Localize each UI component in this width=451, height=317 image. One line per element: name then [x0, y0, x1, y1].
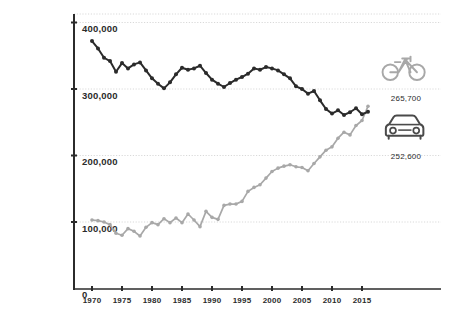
x-axis-tick-label: 1985 [173, 296, 192, 305]
data-point-marker [192, 66, 196, 70]
chart-container: 0100,000200,000300,000400,000 1970197519… [0, 0, 451, 317]
data-point-marker [168, 80, 172, 84]
data-point-marker [300, 166, 304, 170]
data-point-marker [324, 107, 328, 111]
data-point-marker [180, 66, 184, 70]
data-point-marker [342, 130, 346, 134]
data-point-marker [324, 148, 328, 152]
chart-background [0, 0, 451, 317]
data-point-marker [282, 72, 286, 76]
x-axis-tick-label: 1995 [233, 296, 252, 305]
data-point-marker [330, 145, 334, 149]
data-point-marker [228, 81, 232, 85]
data-point-marker [246, 190, 250, 194]
car-value-label: 252,600 [391, 152, 422, 161]
data-point-marker [138, 60, 142, 64]
data-point-marker [186, 212, 190, 216]
data-point-marker [318, 155, 322, 159]
data-point-marker [234, 202, 238, 206]
data-point-marker [300, 87, 304, 91]
data-point-marker [330, 112, 334, 116]
data-point-marker [270, 66, 274, 70]
data-point-marker [96, 219, 100, 223]
x-axis-tick-label: 1990 [203, 296, 222, 305]
data-point-marker [318, 98, 322, 102]
data-point-marker [102, 220, 106, 224]
data-point-marker [150, 76, 154, 80]
data-point-marker [336, 136, 340, 140]
data-point-marker [120, 234, 124, 238]
data-point-marker [138, 234, 142, 238]
data-point-marker [360, 112, 364, 116]
y-axis-tick-label: 200,000 [82, 156, 118, 167]
data-point-marker [108, 59, 112, 63]
x-axis-tick-label: 2000 [263, 296, 282, 305]
data-point-marker [246, 72, 250, 76]
data-point-marker [216, 218, 220, 222]
y-axis-tick-label: 300,000 [82, 90, 118, 101]
data-point-marker [156, 223, 160, 227]
data-point-marker [252, 66, 256, 70]
data-point-marker [144, 68, 148, 72]
data-point-marker [174, 72, 178, 76]
data-point-marker [132, 230, 136, 234]
data-point-marker [144, 226, 148, 230]
data-point-marker [306, 169, 310, 173]
data-point-marker [126, 66, 130, 70]
data-point-marker [204, 71, 208, 75]
data-point-marker [162, 86, 166, 90]
data-point-marker [168, 221, 172, 225]
line-chart: 0100,000200,000300,000400,000 1970197519… [0, 0, 451, 317]
data-point-marker [222, 85, 226, 89]
data-point-marker [228, 202, 232, 206]
data-point-marker [288, 163, 292, 167]
data-point-marker [258, 68, 262, 72]
data-point-marker [264, 176, 268, 180]
data-point-marker [366, 104, 370, 108]
data-point-marker [312, 162, 316, 166]
x-axis-tick-label: 2015 [353, 296, 372, 305]
data-point-marker [276, 166, 280, 170]
data-point-marker [276, 68, 280, 72]
bicycle-value-label: 265,700 [391, 94, 422, 103]
data-point-marker [102, 56, 106, 60]
data-point-marker [132, 62, 136, 66]
data-point-marker [240, 75, 244, 79]
data-point-marker [150, 221, 154, 225]
data-point-marker [120, 61, 124, 65]
data-point-marker [348, 133, 352, 137]
x-axis-tick-label: 1980 [143, 296, 162, 305]
data-point-marker [270, 170, 274, 174]
data-point-marker [90, 218, 94, 222]
data-point-marker [354, 106, 358, 110]
x-axis-tick-label: 1975 [113, 296, 132, 305]
data-point-marker [114, 232, 118, 236]
data-point-marker [210, 216, 214, 220]
data-point-marker [162, 217, 166, 221]
data-point-marker [126, 227, 130, 231]
data-point-marker [204, 210, 208, 214]
data-point-marker [156, 82, 160, 86]
data-point-marker [348, 110, 352, 114]
data-point-marker [198, 64, 202, 68]
data-point-marker [294, 84, 298, 88]
data-point-marker [240, 200, 244, 204]
data-point-marker [264, 65, 268, 69]
data-point-marker [360, 119, 364, 123]
data-point-marker [282, 164, 286, 168]
data-point-marker [174, 216, 178, 220]
data-point-marker [114, 70, 118, 74]
data-point-marker [198, 225, 202, 229]
data-point-marker [222, 204, 226, 208]
data-point-marker [252, 186, 256, 190]
data-point-marker [96, 46, 100, 50]
data-point-marker [354, 124, 358, 128]
data-point-marker [366, 110, 370, 114]
data-point-marker [234, 78, 238, 82]
data-point-marker [216, 82, 220, 86]
data-point-marker [258, 183, 262, 187]
data-point-marker [210, 78, 214, 82]
data-point-marker [336, 108, 340, 112]
data-point-marker [192, 218, 196, 222]
data-point-marker [108, 223, 112, 227]
